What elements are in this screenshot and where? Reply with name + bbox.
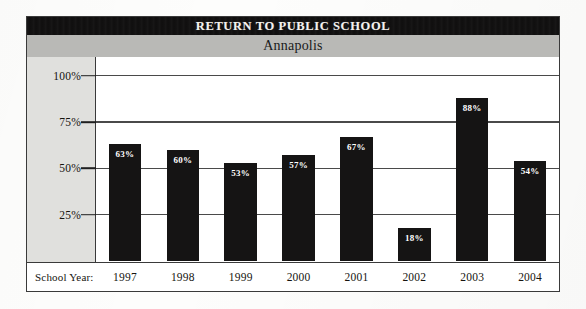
x-axis-row: School Year: 199719981999200020012002200… [27, 262, 559, 291]
x-axis-tick-label: 2003 [460, 271, 484, 283]
bar-value-label: 53% [224, 168, 256, 178]
bar-value-label: 57% [282, 160, 314, 170]
bar: 53% [224, 163, 256, 261]
bar: 67% [340, 137, 372, 261]
bar-value-label: 18% [398, 233, 430, 243]
bar: 88% [456, 98, 488, 261]
x-axis-tick-label: 2002 [402, 271, 426, 283]
bar: 54% [514, 161, 546, 261]
chart-title: RETURN TO PUBLIC SCHOOL [196, 19, 390, 34]
plot-area: 63%60%53%57%67%18%88%54% [96, 57, 559, 263]
x-axis-title: School Year: [35, 271, 94, 283]
bar-value-label: 67% [340, 142, 372, 152]
bar: 63% [109, 144, 141, 261]
x-axis-tick-label: 2000 [287, 271, 311, 283]
x-axis-tick-label: 1999 [229, 271, 253, 283]
y-axis-panel: 25%50%75%100% [27, 57, 96, 263]
gridline [96, 121, 559, 122]
x-axis-tick-label: 1998 [171, 271, 195, 283]
y-axis-tick-label: 50% [59, 162, 81, 174]
x-axis-tick-label: 1997 [113, 271, 137, 283]
chart-subtitle: Annapolis [263, 38, 322, 54]
bar: 57% [282, 155, 314, 261]
bar: 60% [167, 150, 199, 261]
gridline [96, 214, 559, 215]
x-axis-tick-label: 2001 [345, 271, 369, 283]
y-axis-tick-mark [81, 75, 96, 77]
bar-value-label: 63% [109, 149, 141, 159]
chart-subtitle-band: Annapolis [27, 35, 559, 58]
y-axis-tick-label: 25% [59, 209, 81, 221]
gridline [96, 75, 559, 76]
bar-value-label: 54% [514, 166, 546, 176]
y-axis-tick-mark [81, 167, 96, 169]
y-axis-tick-label: 100% [53, 70, 81, 82]
plot-region: 25%50%75%100% 63%60%53%57%67%18%88%54% [27, 57, 559, 263]
bar: 18% [398, 228, 430, 261]
y-axis-tick-label: 75% [59, 116, 81, 128]
chart-title-band: RETURN TO PUBLIC SCHOOL [27, 17, 559, 35]
figure-frame: RETURN TO PUBLIC SCHOOL Annapolis 25%50%… [26, 16, 560, 292]
bar-value-label: 60% [167, 155, 199, 165]
y-axis-tick-mark [81, 121, 96, 123]
bar-value-label: 88% [456, 103, 488, 113]
y-axis-tick-mark [81, 214, 96, 216]
chart-page: RETURN TO PUBLIC SCHOOL Annapolis 25%50%… [0, 0, 586, 309]
x-axis-tick-label: 2004 [518, 271, 542, 283]
gridline [96, 168, 559, 169]
